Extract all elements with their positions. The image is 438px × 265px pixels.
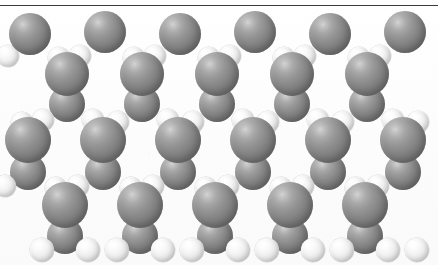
heavy-atom-sphere bbox=[345, 52, 389, 96]
heavy-atom-sphere bbox=[270, 52, 314, 96]
molecular-structure-figure bbox=[0, 0, 438, 265]
hydrogen-atom-sphere bbox=[180, 238, 204, 262]
heavy-atom-sphere bbox=[117, 182, 163, 228]
heavy-atom-sphere bbox=[80, 117, 126, 163]
heavy-atom-sphere bbox=[342, 182, 388, 228]
hydrogen-atom-sphere bbox=[76, 238, 100, 262]
heavy-atom-sphere bbox=[5, 117, 51, 163]
hydrogen-atom-sphere bbox=[151, 238, 175, 262]
hydrogen-atom-sphere bbox=[405, 238, 429, 262]
heavy-atom-sphere bbox=[42, 182, 88, 228]
hydrogen-atom-sphere bbox=[0, 175, 16, 197]
heavy-atom-sphere bbox=[230, 117, 276, 163]
heavy-atom-sphere bbox=[155, 117, 201, 163]
heavy-atom-sphere bbox=[380, 117, 426, 163]
hydrogen-atom-sphere bbox=[255, 238, 279, 262]
heavy-atom-sphere bbox=[9, 13, 51, 55]
hydrogen-atom-sphere bbox=[226, 238, 250, 262]
atom-scene bbox=[0, 0, 438, 265]
heavy-atom-sphere bbox=[305, 117, 351, 163]
top-horizontal-rule bbox=[0, 5, 438, 6]
heavy-atom-sphere bbox=[309, 13, 351, 55]
heavy-atom-sphere bbox=[159, 13, 201, 55]
heavy-atom-sphere bbox=[267, 182, 313, 228]
heavy-atom-sphere bbox=[84, 11, 126, 53]
hydrogen-atom-sphere bbox=[330, 238, 354, 262]
heavy-atom-sphere bbox=[234, 11, 276, 53]
hydrogen-atom-sphere bbox=[105, 238, 129, 262]
heavy-atom-sphere bbox=[384, 11, 426, 53]
hydrogen-atom-sphere bbox=[30, 238, 54, 262]
heavy-atom-sphere bbox=[195, 52, 239, 96]
hydrogen-atom-sphere bbox=[301, 238, 325, 262]
heavy-atom-sphere bbox=[192, 182, 238, 228]
heavy-atom-sphere bbox=[120, 52, 164, 96]
hydrogen-atom-sphere bbox=[376, 238, 400, 262]
heavy-atom-sphere bbox=[45, 52, 89, 96]
